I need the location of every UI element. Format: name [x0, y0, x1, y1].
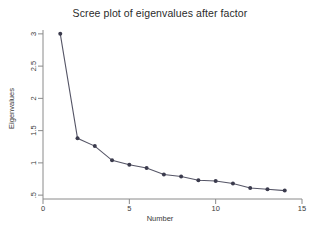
data-point — [93, 144, 97, 148]
x-tick-label: 10 — [211, 204, 219, 213]
scree-plot-figure: Scree plot of eigenvalues after factor .… — [0, 0, 320, 232]
y-tick-label: 2.5 — [30, 61, 39, 71]
y-tick-label: 1.5 — [30, 125, 39, 135]
scree-plot-canvas: .511.522.53 051015 — [0, 0, 320, 232]
y-axis-ticks: .511.522.53 — [30, 32, 44, 198]
x-axis-title: Number — [0, 214, 320, 223]
axes: .511.522.53 051015 — [30, 30, 307, 213]
y-tick-label: 2 — [30, 96, 39, 100]
data-point — [76, 136, 80, 140]
series-markers — [58, 32, 286, 193]
data-point — [231, 182, 235, 186]
y-tick-label: .5 — [30, 192, 39, 198]
x-tick-label: 0 — [41, 204, 45, 213]
data-point — [145, 166, 149, 170]
data-point — [110, 158, 114, 162]
data-point — [283, 189, 287, 193]
x-axis-ticks: 051015 — [41, 199, 306, 213]
data-series-eigenvalues — [58, 32, 286, 193]
y-axis-title: Eigenvalues — [7, 74, 16, 144]
y-tick-label: 3 — [30, 32, 39, 36]
data-point — [214, 179, 218, 183]
y-tick-label: 1 — [30, 161, 39, 165]
data-point — [179, 174, 183, 178]
data-point — [58, 32, 62, 36]
data-point — [248, 186, 252, 190]
data-point — [162, 172, 166, 176]
series-line — [60, 34, 284, 191]
x-tick-label: 5 — [127, 204, 131, 213]
data-point — [127, 163, 131, 167]
data-point — [196, 178, 200, 182]
data-point — [265, 187, 269, 191]
x-tick-label: 15 — [298, 204, 306, 213]
